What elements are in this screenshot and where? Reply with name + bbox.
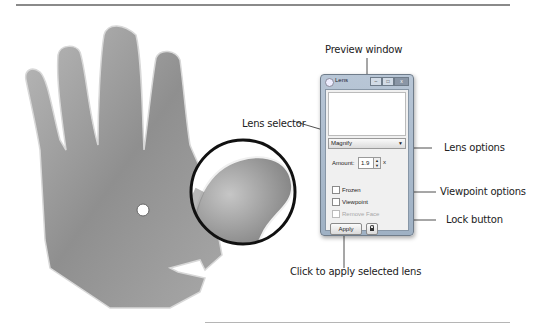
apply-button[interactable]: Apply — [330, 223, 362, 235]
callout-apply: Click to apply selected lens — [290, 266, 421, 277]
checkbox-icon — [332, 210, 340, 218]
remove-face-label: Remove Face — [342, 211, 379, 217]
lens-selector-value: Magnify — [331, 140, 352, 146]
amount-unit: x — [383, 159, 386, 165]
window-client: Magnify ▼ Amount: 1.9 ▲ ▼ x Frozen Viewp… — [325, 89, 409, 231]
lock-icon — [370, 228, 374, 231]
spin-down-icon[interactable]: ▼ — [374, 163, 380, 168]
lens-window: Lens – □ x Magnify ▼ Amount: 1.9 ▲ ▼ x F… — [320, 74, 414, 236]
app-icon — [325, 78, 334, 87]
lock-button[interactable] — [366, 223, 378, 235]
amount-label: Amount: — [332, 160, 354, 166]
callout-lens-selector: Lens selector — [242, 118, 306, 129]
callout-viewpoint-options: Viewpoint options — [440, 186, 526, 197]
checkbox-icon[interactable] — [332, 198, 340, 206]
frozen-label: Frozen — [342, 187, 361, 193]
minimize-button[interactable]: – — [370, 77, 382, 86]
preview-window — [328, 92, 406, 136]
callout-preview-window: Preview window — [325, 44, 402, 55]
hand-shape — [26, 26, 222, 308]
hand-illustration — [0, 0, 533, 325]
viewpoint-checkbox[interactable]: Viewpoint — [332, 198, 406, 207]
close-button[interactable]: x — [394, 77, 409, 86]
chevron-down-icon: ▼ — [398, 139, 403, 148]
amount-stepper[interactable]: ▲ ▼ — [373, 157, 381, 169]
amount-input[interactable]: 1.9 — [358, 157, 374, 169]
viewpoint-label: Viewpoint — [342, 199, 368, 205]
callout-lock-button: Lock button — [446, 214, 503, 225]
lens-selector-dropdown[interactable]: Magnify ▼ — [328, 138, 406, 149]
callout-lens-options: Lens options — [444, 142, 505, 153]
remove-face-checkbox: Remove Face — [332, 210, 406, 219]
window-title: Lens — [335, 77, 348, 83]
maximize-button[interactable]: □ — [382, 77, 394, 86]
title-bar[interactable]: Lens – □ x — [321, 75, 413, 89]
checkbox-icon[interactable] — [332, 186, 340, 194]
frozen-checkbox[interactable]: Frozen — [332, 186, 406, 195]
